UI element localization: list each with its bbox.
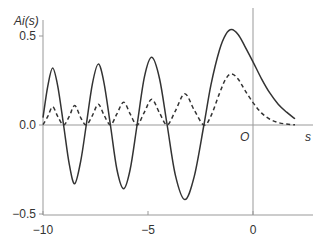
x-axis-label: s [305, 130, 311, 144]
x-tick-label: −10 [33, 223, 54, 237]
plot-area: −10−500.50.0−0.5Ai(s)sO [0, 0, 327, 247]
y-tick-label: 0.5 [19, 29, 36, 43]
origin-label: O [240, 130, 249, 144]
y-axis-label: Ai(s) [13, 14, 39, 28]
x-tick-label: −5 [141, 223, 155, 237]
x-tick-label: 0 [250, 223, 257, 237]
y-tick-label: −0.5 [12, 207, 36, 221]
chart: −10−500.50.0−0.5Ai(s)sO [0, 0, 327, 247]
ai-curve [43, 30, 295, 200]
ai-squared-curve [43, 74, 295, 125]
y-tick-label: 0.0 [19, 118, 36, 132]
